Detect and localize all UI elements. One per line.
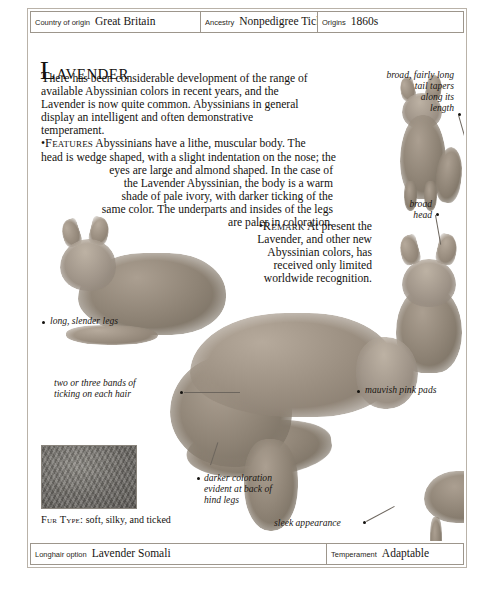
remark-line-4: received only limited bbox=[273, 259, 372, 272]
intro-line-1: here has been considerable development o… bbox=[50, 72, 308, 85]
encyclopedia-page: Country of origin Great Britain Ancestry… bbox=[27, 8, 467, 568]
field-country-of-origin: Country of origin Great Britain bbox=[31, 12, 200, 32]
remark-heading: Remark bbox=[263, 219, 305, 233]
article-content: Lavender There has been considerable dev… bbox=[30, 35, 464, 541]
annotation-legs: long, slender legs bbox=[50, 315, 180, 326]
field-label-country-of-origin: Country of origin bbox=[35, 15, 90, 27]
features-line-6: same color. The underparts and insides o… bbox=[102, 203, 333, 216]
header-field-strip: Country of origin Great Britain Ancestry… bbox=[30, 11, 464, 33]
footer-field-strip: Longhair option Lavender Somali Temperam… bbox=[30, 543, 464, 565]
remark-line-2: Lavender, and other new bbox=[257, 233, 372, 246]
annotation-ticking-dot bbox=[180, 391, 183, 394]
fur-type-swatch bbox=[41, 445, 137, 509]
remark-line-5: worldwide recognition. bbox=[264, 272, 372, 285]
annotation-head: broad head bbox=[370, 198, 432, 220]
crouch-paws bbox=[66, 325, 158, 345]
remark-line-1: At present the bbox=[305, 220, 372, 233]
field-value-country-of-origin: Great Britain bbox=[95, 12, 155, 28]
features-line-3: eyes are large and almond shaped. In the… bbox=[109, 164, 333, 177]
annotation-pads-dot bbox=[357, 390, 360, 393]
intro-line-3: Lavender is now quite common. Abyssinian… bbox=[41, 98, 299, 111]
features-heading: Features bbox=[45, 136, 93, 150]
photo-cat-standing bbox=[422, 427, 464, 541]
paragraph-intro: There has been considerable development … bbox=[41, 71, 313, 137]
annotation-darker: darker coloration evident at back of hin… bbox=[204, 472, 322, 505]
annotation-tail: broad, fairly long tail tapers along its… bbox=[356, 69, 454, 113]
remark-line-3: Abyssinian colors, has bbox=[267, 246, 372, 259]
seated-head bbox=[402, 259, 456, 307]
field-value-longhair-option: Lavender Somali bbox=[92, 544, 171, 560]
annotation-pads: mauvish pink pads bbox=[365, 384, 464, 395]
features-line-5: shade of pale ivory, with darker ticking… bbox=[122, 190, 333, 203]
annotation-darker-dot bbox=[197, 477, 200, 480]
field-temperament: Temperament Adaptable bbox=[326, 544, 463, 564]
annotation-sleek: sleek appearance bbox=[274, 517, 366, 528]
paragraph-features: •Features Abyssinians have a lithe, musc… bbox=[41, 137, 346, 163]
field-longhair-option: Longhair option Lavender Somali bbox=[31, 544, 326, 564]
features-line-1: Abyssinians have a lithe, muscular body.… bbox=[93, 137, 306, 150]
stand-leg-rear bbox=[430, 517, 442, 541]
intro-line-4: display an intelligent and often demonst… bbox=[41, 111, 253, 137]
recline-neck bbox=[356, 337, 418, 409]
field-value-origins: 1860s bbox=[351, 12, 378, 28]
features-line-4: the Lavender Abyssinian, the body is a w… bbox=[124, 177, 333, 190]
field-label-longhair-option: Longhair option bbox=[35, 547, 87, 559]
field-origins: Origins 1860s bbox=[317, 12, 463, 32]
intro-line-2: available Abyssinian colors in recent ye… bbox=[41, 85, 279, 98]
stand-ear-left bbox=[463, 427, 464, 454]
field-value-ancestry: Nonpedigree Ticked Shorthairs bbox=[239, 12, 317, 28]
field-ancestry: Ancestry Nonpedigree Ticked Shorthairs bbox=[200, 12, 317, 32]
annotation-legs-dot bbox=[42, 321, 45, 324]
features-line-2: head is wedge shaped, with a slight inde… bbox=[41, 151, 336, 164]
annotation-ticking-leader bbox=[184, 392, 240, 393]
annotation-head-dot bbox=[436, 213, 439, 216]
stand-body bbox=[424, 471, 464, 523]
annotation-ticking: two or three bands of ticking on each ha… bbox=[54, 377, 178, 399]
fur-type-heading: Fur Type: bbox=[41, 514, 83, 525]
paragraph-remark: •Remark At present the Lavender, and oth… bbox=[180, 220, 372, 285]
article-body: There has been considerable development … bbox=[41, 71, 371, 229]
field-label-temperament: Temperament bbox=[331, 547, 377, 559]
fur-type-text: soft, silky, and ticked bbox=[83, 514, 171, 525]
crouch-head bbox=[60, 239, 116, 291]
field-label-ancestry: Ancestry bbox=[205, 15, 234, 27]
field-value-temperament: Adaptable bbox=[382, 544, 429, 560]
field-label-origins: Origins bbox=[322, 15, 346, 27]
intro-drop-cap: T bbox=[41, 70, 50, 85]
fur-type-caption: Fur Type: soft, silky, and ticked bbox=[41, 514, 171, 525]
